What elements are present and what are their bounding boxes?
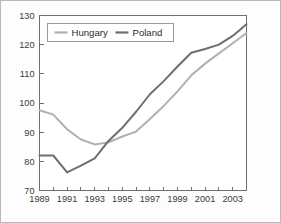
x-tick-label: 1989 — [29, 194, 49, 204]
x-tick-label: 2001 — [195, 194, 215, 204]
y-tick-label: 110 — [20, 69, 35, 79]
x-tick-label: 2003 — [222, 194, 242, 204]
y-tick-label: 80 — [24, 157, 34, 167]
x-tick-label: 1997 — [140, 194, 160, 204]
y-tick-label: 100 — [19, 98, 34, 108]
line-chart: 708090100110120130 198919911993199519971… — [1, 1, 281, 223]
x-tick-label: 1993 — [84, 194, 104, 204]
y-axis-tick-labels: 708090100110120130 — [19, 11, 34, 196]
x-tick-label: 1991 — [57, 194, 77, 204]
x-axis-tick-labels: 19891991199319951997199920012003 — [29, 194, 243, 204]
legend-label-poland: Poland — [133, 27, 163, 38]
x-tick-label: 1999 — [167, 194, 187, 204]
y-tick-label: 90 — [24, 128, 34, 138]
chart-legend: HungaryPoland — [48, 24, 174, 42]
y-tick-label: 130 — [19, 11, 34, 21]
chart-figure: 708090100110120130 198919911993199519971… — [0, 0, 281, 223]
y-tick-label: 120 — [19, 40, 34, 50]
legend-label-hungary: Hungary — [72, 27, 108, 38]
x-tick-label: 1995 — [112, 194, 132, 204]
